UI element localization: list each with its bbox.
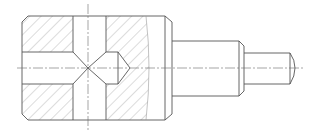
hatch-bottom-left [22,84,73,120]
technical-drawing [0,0,318,136]
shaft-step-2 [244,53,295,84]
hatch-top-left [22,16,73,52]
shaft-step-1 [172,41,244,96]
